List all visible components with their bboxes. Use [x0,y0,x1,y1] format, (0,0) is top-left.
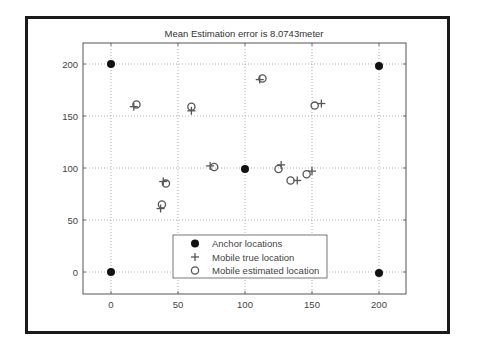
open-circle-marker-icon [311,102,318,109]
x-tick-label: 200 [371,299,387,310]
anchor-marker-icon [107,60,115,68]
legend-label: Mobile estimated location [212,265,319,276]
open-circle-marker-icon [211,163,218,170]
x-tick-label: 100 [237,299,253,310]
open-circle-marker-icon [275,165,282,172]
chart-title: Mean Estimation error is 8.0743meter [165,28,324,39]
open-circle-marker-icon [303,171,310,178]
anchor-marker-icon [241,165,249,173]
series-plus [130,76,326,213]
series-open-circle [133,75,318,208]
open-circle-marker-icon [287,177,294,184]
y-tick-label: 0 [73,267,78,278]
anchor-marker-icon [107,268,115,276]
anchor-marker-icon [191,240,199,248]
y-tick-label: 150 [62,111,78,122]
plus-marker-icon [157,205,165,213]
x-tick-label: 50 [173,299,184,310]
legend-label: Mobile true location [212,252,294,263]
legend-label: Anchor locations [212,238,282,249]
x-tick-label: 0 [108,299,113,310]
open-circle-marker-icon [158,201,165,208]
legend: Anchor locationsMobile true locationMobi… [173,235,327,278]
x-tick-label: 150 [304,299,320,310]
y-tick-label: 100 [62,163,78,174]
anchor-marker-icon [375,62,383,70]
y-tick-label: 50 [67,215,78,226]
scatter-plot: Mean Estimation error is 8.0743meter 050… [0,0,477,348]
y-tick-label: 200 [62,59,78,70]
anchor-marker-icon [375,269,383,277]
